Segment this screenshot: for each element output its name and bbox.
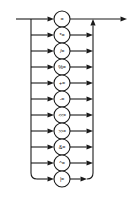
operator-label-0: =: [61, 16, 64, 22]
branch-out-arrow-icon-10: [81, 176, 88, 181]
branch-out-arrow-icon-7: [87, 128, 94, 133]
operator-label-2: /=: [60, 48, 64, 54]
operator-label-6: <<=: [59, 113, 67, 118]
branch-in-arrow-icon-5: [48, 96, 55, 101]
operator-label-3: %=: [58, 64, 66, 70]
merge-arrow-up-icon: [90, 19, 95, 26]
railroad-diagram-canvas: =*=/=%=+=-=<<=>>=&=^=|=: [0, 0, 131, 208]
branch-in-arrow-icon-6: [48, 112, 55, 117]
branch-in-arrow-icon-4: [48, 80, 55, 85]
left-rail-bottom-corner: [31, 173, 37, 179]
branch-in-arrow-icon-7: [48, 128, 55, 133]
branch-out-arrow-icon-8: [87, 144, 94, 149]
branch-in-arrow-icon-2: [48, 48, 55, 53]
operator-nodes-group: =*=/=%=+=-=<<=>>=&=^=|=: [54, 11, 70, 187]
branch-out-arrow-icon-3: [87, 64, 94, 69]
operator-label-5: -=: [60, 96, 65, 102]
right-rail-bottom-corner: [87, 173, 93, 179]
operator-label-8: &=: [59, 144, 65, 150]
branch-out-arrow-icon-6: [87, 112, 94, 117]
operator-label-1: *=: [60, 32, 65, 38]
branch-out-arrow-icon-4: [87, 80, 94, 85]
branch-out-arrow-icon-1: [87, 32, 94, 37]
operator-label-7: >>=: [59, 129, 67, 134]
branch-in-arrow-icon-0: [48, 16, 55, 21]
operator-label-9: ^=: [59, 160, 64, 166]
branch-out-arrow-icon-9: [87, 160, 94, 165]
branch-out-arrow-icon-5: [87, 96, 94, 101]
rails-group: [16, 16, 127, 181]
branch-in-arrow-icon-10: [48, 176, 55, 181]
branch-in-arrow-icon-3: [48, 64, 55, 69]
branch-in-arrow-icon-1: [48, 32, 55, 37]
branch-in-arrow-icon-9: [48, 160, 55, 165]
operator-label-10: |=: [60, 176, 64, 182]
railroad-diagram-svg: =*=/=%=+=-=<<=>>=&=^=|=: [0, 0, 131, 208]
exit-arrow-icon: [121, 16, 128, 21]
operator-label-4: +=: [59, 80, 65, 86]
branch-out-arrow-icon-2: [87, 48, 94, 53]
branch-in-arrow-icon-8: [48, 144, 55, 149]
